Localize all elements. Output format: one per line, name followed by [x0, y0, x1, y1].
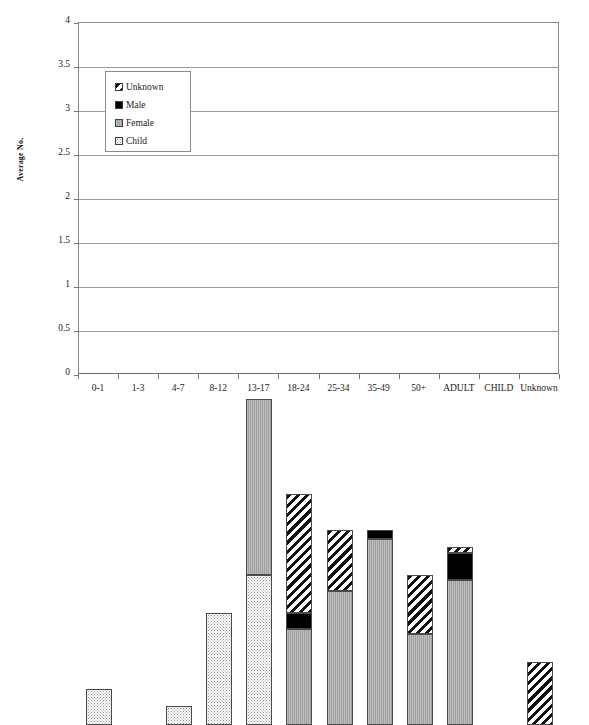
bar-column: [480, 23, 520, 373]
legend-swatch-unknown: [115, 83, 123, 91]
bar-segment-female: [246, 399, 272, 576]
y-tick-label: 1.5: [30, 235, 70, 245]
bar-segment-female: [327, 591, 353, 725]
x-tick-mark: [158, 374, 159, 379]
bar-segment-male: [447, 553, 473, 580]
x-tick-label-25-34: 25-34: [319, 383, 359, 393]
legend-item-female[interactable]: Female: [115, 114, 190, 132]
bar-column: [520, 23, 560, 373]
x-tick-mark: [319, 374, 320, 379]
gridline: [79, 155, 558, 156]
bar-column: [440, 23, 480, 373]
y-tick-mark: [74, 155, 79, 156]
legend-label: Child: [126, 136, 147, 146]
x-tick-mark: [78, 374, 79, 379]
y-tick-label: 2: [30, 191, 70, 201]
x-tick-mark: [359, 374, 360, 379]
x-tick-label-8-12: 8-12: [198, 383, 238, 393]
bar-segment-unknown: [527, 662, 553, 725]
legend-item-unknown[interactable]: Unknown: [115, 78, 190, 96]
legend-item-child[interactable]: Child: [115, 132, 190, 150]
legend-swatch-female: [115, 119, 123, 127]
x-tick-label-0-1: 0-1: [78, 383, 118, 393]
x-tick-label-adult: ADULT: [439, 383, 479, 393]
x-tick-mark: [118, 374, 119, 379]
legend-label: Unknown: [126, 82, 163, 92]
bar-segment-child: [206, 613, 232, 725]
y-tick-mark: [74, 67, 79, 68]
bar-column: [279, 23, 319, 373]
bar-segment-child: [246, 575, 272, 725]
y-axis-title: Average No.: [16, 100, 25, 220]
x-tick-mark: [439, 374, 440, 379]
y-tick-label: 0: [30, 367, 70, 377]
x-tick-mark: [238, 374, 239, 379]
y-tick-mark: [74, 287, 79, 288]
bar-segment-female: [286, 629, 312, 725]
bar-segment-child: [86, 689, 112, 725]
gridline: [79, 199, 558, 200]
x-tick-label-13-17: 13-17: [238, 383, 278, 393]
legend-swatch-child: [115, 137, 123, 145]
legend-label: Male: [126, 100, 146, 110]
bar-column: [360, 23, 400, 373]
bar-segment-male: [286, 613, 312, 629]
x-tick-label-18-24: 18-24: [278, 383, 318, 393]
y-tick-label: 1: [30, 279, 70, 289]
x-tick-label-1-3: 1-3: [118, 383, 158, 393]
legend-item-male[interactable]: Male: [115, 96, 190, 114]
bar-segment-unknown: [407, 575, 433, 635]
bar-column: [400, 23, 440, 373]
bar-segment-female: [407, 634, 433, 725]
x-tick-mark: [519, 374, 520, 379]
x-tick-mark: [479, 374, 480, 379]
bar-segment-unknown: [327, 530, 353, 592]
x-tick-mark: [198, 374, 199, 379]
y-tick-label: 0.5: [30, 323, 70, 333]
x-tick-label-child: CHILD: [479, 383, 519, 393]
bar-column: [199, 23, 239, 373]
y-tick-mark: [74, 331, 79, 332]
gridline: [79, 67, 558, 68]
bar-segment-child: [166, 706, 192, 725]
x-tick-label-35-49: 35-49: [359, 383, 399, 393]
y-tick-mark: [74, 199, 79, 200]
x-tick-mark: [559, 374, 560, 379]
legend: UnknownMaleFemaleChild: [105, 71, 191, 152]
x-tick-label-unknown: Unknown: [519, 383, 559, 393]
gridline: [79, 331, 558, 332]
legend-swatch-male: [115, 101, 123, 109]
gridline: [79, 287, 558, 288]
bar-column: [239, 23, 279, 373]
bar-segment-unknown: [447, 547, 473, 552]
y-tick-label: 3: [30, 103, 70, 113]
bar-segment-female: [447, 580, 473, 725]
bar-segment-female: [367, 539, 393, 725]
y-tick-mark: [74, 111, 79, 112]
bar-column: [320, 23, 360, 373]
y-tick-mark: [74, 243, 79, 244]
x-tick-mark: [278, 374, 279, 379]
legend-label: Female: [126, 118, 154, 128]
y-tick-label: 2.5: [30, 147, 70, 157]
y-tick-mark: [74, 23, 79, 24]
bar-segment-unknown: [286, 494, 312, 614]
x-tick-label-50-: 50+: [399, 383, 439, 393]
gridline: [79, 243, 558, 244]
bar-segment-male: [367, 530, 393, 540]
x-tick-mark: [399, 374, 400, 379]
x-tick-label-4-7: 4-7: [158, 383, 198, 393]
y-tick-label: 3.5: [30, 59, 70, 69]
y-tick-label: 4: [30, 15, 70, 25]
